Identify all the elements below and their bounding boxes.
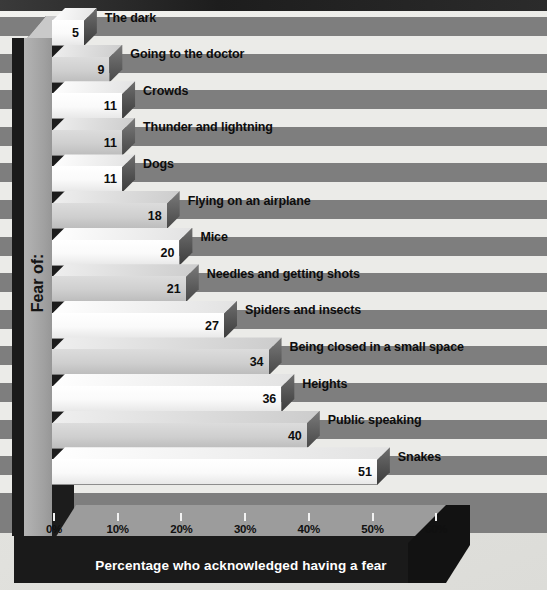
bar-value-label: 11 [104,135,117,151]
bar-front-face: 18 [52,203,167,229]
category-label: Crowds [143,82,188,99]
bar-front-face: 9 [52,57,109,83]
bar-value-label: 21 [167,281,181,297]
bar-front-face: 5 [52,20,84,46]
category-label: Spiders and insects [245,302,361,319]
bar-front-face: 51 [52,459,377,485]
x-axis-tick-label: 40% [298,523,320,535]
category-label: Public speaking [328,412,422,429]
x-axis-tick [180,513,182,521]
bar: 40 [52,424,307,449]
bar-front-face: 11 [52,93,122,119]
bar-front-face: 34 [52,349,269,375]
bar-front-face: 36 [52,386,281,412]
category-label: Dogs [143,155,174,172]
category-label: Snakes [398,448,441,465]
x-axis-title: Percentage who acknowledged having a fea… [46,553,436,577]
bar: 9 [52,58,109,83]
category-label: Mice [200,229,227,246]
x-axis-tick [372,513,374,521]
bar-value-label: 27 [205,318,219,334]
bar: 11 [52,167,122,192]
bar-value-label: 11 [104,98,117,114]
x-axis-tick-label: 10% [106,523,128,535]
bar: 36 [52,387,281,412]
x-axis-tick [308,513,310,521]
bar-front-face: 20 [52,240,179,266]
x-axis-tick [117,513,119,521]
bar: 18 [52,204,167,229]
category-label: Going to the doctor [130,46,244,63]
bar-value-label: 34 [250,354,264,370]
x-axis-tick [244,513,246,521]
y-axis-title: Fear of: [29,183,47,383]
bar: 11 [52,131,122,156]
bar: 20 [52,241,179,266]
category-label: Needles and getting shots [207,265,360,282]
bar: 11 [52,94,122,119]
bar-value-label: 9 [97,62,104,78]
bar: 34 [52,350,269,375]
bar-front-face: 40 [52,423,307,449]
bar-value-label: 5 [72,25,79,41]
category-label: Heights [302,375,347,392]
chart-canvas: Fear of: 591111111820212734364051 The da… [0,0,547,590]
bar-value-label: 40 [288,428,302,444]
x-axis-tick [53,513,55,521]
bar-value-label: 11 [104,171,117,187]
bar: 5 [52,21,84,46]
bar: 21 [52,277,186,302]
bar: 51 [52,460,377,485]
bar-value-label: 20 [160,245,174,261]
x-axis-tick-label: 0% [46,523,62,535]
bar-front-face: 21 [52,276,186,302]
category-label: Thunder and lightning [143,119,273,136]
x-axis-scale: 0%10%20%30%40%50%60% [14,505,470,545]
bar-front-face: 27 [52,313,224,339]
x-axis-tick [435,513,437,521]
bar-front-face: 11 [52,130,122,156]
bar: 27 [52,314,224,339]
x-axis-tick-label: 20% [170,523,192,535]
bar-front-face: 11 [52,166,122,192]
bar-value-label: 36 [262,391,276,407]
x-axis-tick-label: 60% [425,523,447,535]
bar-value-label: 18 [148,208,162,224]
x-axis-tick-label: 50% [361,523,383,535]
category-label: The dark [105,9,156,26]
bar-value-label: 51 [358,464,372,480]
category-label: Flying on an airplane [188,192,311,209]
x-axis-tick-label: 30% [234,523,256,535]
category-label: Being closed in a small space [290,338,464,355]
